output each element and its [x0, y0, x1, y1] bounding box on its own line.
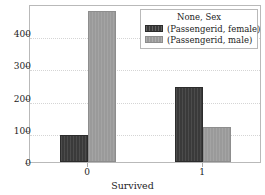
- legend-label-male: (Passengerid, male): [167, 35, 252, 45]
- legend-item-male[interactable]: (Passengerid, male): [145, 34, 253, 45]
- ytick-label-100: 100: [14, 127, 31, 136]
- ytick-label-0: 0: [25, 159, 31, 168]
- xtick-label-0: 0: [84, 168, 90, 177]
- legend-swatch-female-icon: [145, 25, 163, 32]
- ytick-label-200: 200: [14, 95, 31, 104]
- bar-female-survived-0[interactable]: [60, 135, 88, 162]
- legend-item-female[interactable]: (Passengerid, female): [145, 23, 253, 34]
- legend[interactable]: None, Sex (Passengerid, female) (Passeng…: [140, 9, 258, 49]
- bar-female-survived-1[interactable]: [175, 87, 203, 162]
- bar-male-survived-0[interactable]: [88, 11, 116, 162]
- gridline-200: [30, 103, 260, 104]
- legend-swatch-male-icon: [145, 36, 163, 43]
- ytick-label-300: 300: [14, 62, 31, 71]
- ytick-label-400: 400: [14, 30, 31, 39]
- bar-male-survived-1[interactable]: [203, 127, 231, 162]
- x-axis-label: Survived: [0, 181, 265, 191]
- legend-label-female: (Passengerid, female): [167, 24, 260, 34]
- legend-title: None, Sex: [145, 12, 253, 22]
- gridline-300: [30, 70, 260, 71]
- xtick-label-1: 1: [199, 168, 205, 177]
- bar-chart-figure: 0 100 200 300 400 0 1 Survived None, Sex…: [0, 0, 265, 195]
